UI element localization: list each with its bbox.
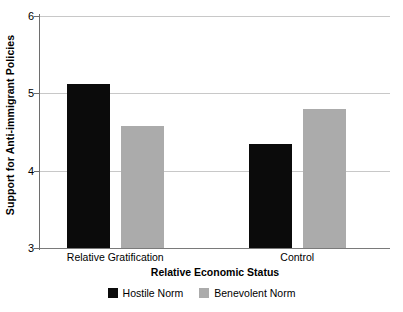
legend-item[interactable]: Benevolent Norm <box>199 287 295 299</box>
legend-swatch-icon <box>108 288 118 298</box>
legend-label: Benevolent Norm <box>214 287 295 299</box>
x-axis-title: Relative Economic Status <box>40 266 390 278</box>
legend-item[interactable]: Hostile Norm <box>108 287 184 299</box>
bar-chart: Support for Anti-immigrant Policies 3456… <box>0 0 403 312</box>
legend: Hostile NormBenevolent Norm <box>0 287 403 299</box>
gridline <box>40 248 390 249</box>
legend-swatch-icon <box>199 288 209 298</box>
bar <box>303 109 346 248</box>
bar <box>249 144 292 248</box>
legend-label: Hostile Norm <box>123 287 184 299</box>
bar <box>67 84 110 248</box>
gridline <box>40 16 390 17</box>
x-axis-tick-label: Control <box>280 251 314 263</box>
y-axis-tick-label: 3 <box>8 242 34 254</box>
x-axis-tick-label: Relative Gratification <box>67 251 164 263</box>
y-axis-tick-label: 5 <box>8 87 34 99</box>
plot-area <box>40 16 390 248</box>
x-axis-tick-labels: Relative GratificationControl <box>40 251 390 267</box>
y-axis-tick-labels: 3456 <box>0 16 34 248</box>
bar <box>121 126 164 248</box>
y-axis-tick-label: 6 <box>8 10 34 22</box>
y-axis-tick-label: 4 <box>8 165 34 177</box>
